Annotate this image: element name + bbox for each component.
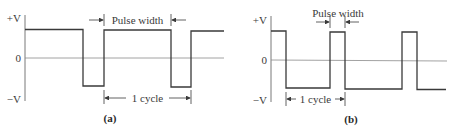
pulse-width-label: Pulse width <box>312 7 364 19</box>
caption-b: (b) <box>344 113 358 126</box>
panel-b: +V 0 −V Pulse width 1 cycle (b) <box>253 7 447 126</box>
label-plus-v: +V <box>253 14 267 26</box>
cycle-label: 1 cycle <box>300 93 332 105</box>
label-minus-v: −V <box>7 93 21 105</box>
label-minus-v: −V <box>253 94 267 106</box>
panel-a: +V 0 −V Pulse width 1 cycle (a) <box>7 12 224 125</box>
pulse-width-label: Pulse width <box>112 14 164 26</box>
caption-a: (a) <box>104 112 117 125</box>
pulse-waveform-figure: +V 0 −V Pulse width 1 cycle (a) +V 0 −V <box>0 0 452 132</box>
label-zero: 0 <box>16 52 22 64</box>
cycle-label: 1 cycle <box>132 92 164 104</box>
label-plus-v: +V <box>7 12 21 24</box>
zero-line <box>271 60 447 61</box>
label-zero: 0 <box>262 54 268 66</box>
